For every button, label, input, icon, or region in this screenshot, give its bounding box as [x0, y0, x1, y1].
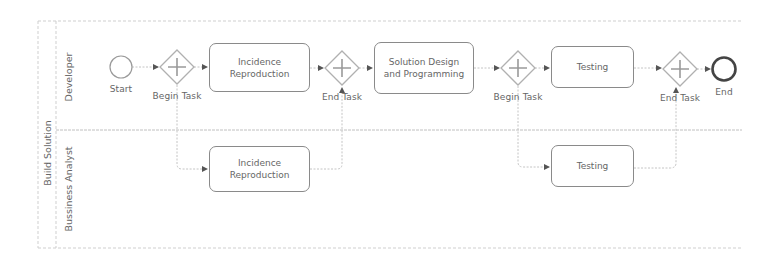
gateway-label: End Task	[660, 93, 700, 103]
task-label: Incidence Reproduction	[216, 56, 303, 80]
task-incidence-reproduction-dev[interactable]: Incidence Reproduction	[209, 43, 310, 92]
task-incidence-reproduction-analyst[interactable]: Incidence Reproduction	[209, 146, 310, 192]
task-label: Incidence Reproduction	[216, 157, 303, 181]
task-testing-analyst[interactable]: Testing	[551, 145, 634, 187]
parallel-gateway-icon[interactable]	[663, 52, 697, 86]
task-label: Testing	[577, 160, 609, 172]
task-label: Testing	[577, 61, 609, 73]
parallel-gateway-icon[interactable]	[160, 50, 194, 84]
task-label: Solution Design and Programming	[381, 56, 467, 80]
end-event-icon[interactable]	[713, 58, 736, 81]
gateway-label: End Task	[322, 92, 362, 102]
parallel-gateway-icon[interactable]	[325, 51, 359, 85]
end-event-label: End	[715, 87, 732, 97]
task-solution-design[interactable]: Solution Design and Programming	[374, 42, 474, 94]
pool-label: Build Solution	[42, 120, 53, 186]
gateway-label: Begin Task	[153, 91, 202, 101]
task-testing-dev[interactable]: Testing	[551, 46, 634, 88]
start-event-label: Start	[110, 84, 133, 94]
start-event-icon[interactable]	[110, 56, 132, 78]
lane-label-analyst: Bussiness Analyst	[63, 146, 74, 231]
gateway-label: Begin Task	[494, 92, 543, 102]
bpmn-canvas	[0, 0, 782, 259]
lane-label-developer: Developer	[63, 53, 74, 102]
parallel-gateway-icon[interactable]	[501, 51, 535, 85]
